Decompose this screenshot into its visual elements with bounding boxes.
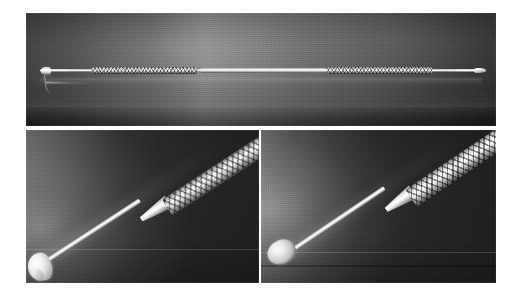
knurled-grip: [162, 130, 259, 216]
photo-plate: Full length side view of the double-ende…: [0, 0, 516, 298]
knurled-grip: [406, 130, 496, 207]
instrument-closeup-spoon: [261, 130, 496, 283]
spoon-blade-tip: [474, 68, 486, 73]
plugger-disc-tip: [41, 67, 52, 75]
instrument-reflection: [40, 78, 482, 86]
panel-plugger-tip-closeup: Angled close-up of the flat disc condens…: [26, 130, 259, 283]
centre-body: [200, 68, 327, 74]
instrument-closeup-plugger: [26, 130, 259, 283]
plate-title: Double-ended dental instrument — three-v…: [0, 0, 1, 1]
panel-top-description: Full length side view of the double-ende…: [26, 13, 27, 14]
panel-spoon-tip-closeup: Angled close-up of the spoon / spatula w…: [261, 130, 496, 283]
instrument-full-view: [40, 64, 484, 76]
knurled-grip-right: [327, 67, 434, 74]
backdrop-tabletop: [26, 88, 496, 126]
knurled-grip-left: [91, 67, 198, 74]
working-shaft: [44, 198, 141, 263]
panel-full-instrument-view: Full length side view of the double-ende…: [26, 13, 496, 126]
working-shaft: [294, 186, 387, 251]
spoon-blade-head: [264, 236, 300, 269]
